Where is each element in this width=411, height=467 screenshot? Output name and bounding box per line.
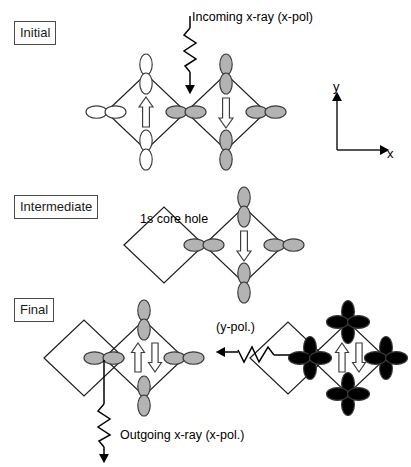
- core-hole-label: 1s core hole: [140, 213, 208, 226]
- initial-orbital-right: [246, 106, 286, 118]
- intermediate-orbital-right: [264, 239, 304, 251]
- incoming-xray-ray: [184, 16, 196, 88]
- initial-orbital-top-right: [220, 54, 232, 94]
- initial-orbital-left: [86, 106, 126, 118]
- final-left-spin-down-arrow: [149, 343, 162, 372]
- intermediate-spin-down-arrow: [237, 231, 251, 261]
- intermediate-orbital-center: [184, 239, 224, 251]
- final-left-orbital-right: [164, 352, 204, 364]
- intermediate-panel-graphics: [124, 187, 304, 303]
- initial-orbital-bottom-right: [220, 130, 232, 170]
- outgoing-xray-label: Outgoing x-ray (x-pol.): [120, 429, 244, 442]
- initial-orbital-center: [166, 106, 206, 118]
- stage-label-intermediate: Intermediate: [14, 195, 98, 219]
- intermediate-orbital-top-right: [238, 187, 250, 227]
- rixs-orbital-figure: .bond { stroke:#1d1d1d; stroke-width:1.2…: [0, 0, 411, 467]
- figure-canvas: .bond { stroke:#1d1d1d; stroke-width:1.2…: [0, 0, 411, 467]
- axis-indicator: [337, 98, 383, 150]
- initial-orbital-bottom-left: [140, 130, 152, 170]
- final-right-graphics: [222, 301, 408, 416]
- final-right-spin-down-arrow: [353, 343, 366, 372]
- final-right-spin-up-arrow: [336, 343, 349, 372]
- stage-label-final: Final: [14, 298, 54, 322]
- stage-label-initial: Initial: [14, 21, 56, 45]
- axis-x-label: x: [387, 147, 394, 160]
- final-left-orbital-top: [138, 300, 150, 340]
- outgoing-xray-ray: [98, 360, 110, 457]
- incoming-xray-label: Incoming x-ray (x-pol): [192, 11, 313, 24]
- initial-spin-down-arrow: [219, 98, 233, 128]
- axis-y-label: y: [333, 80, 340, 93]
- initial-spin-up-arrow: [139, 97, 153, 127]
- final-left-orbital-bottom: [138, 376, 150, 416]
- y-polarization-label: (y-pol.): [216, 321, 255, 334]
- initial-orbital-top-left: [140, 54, 152, 94]
- intermediate-orbital-bottom-right: [238, 263, 250, 303]
- final-left-spin-up-arrow: [132, 343, 145, 372]
